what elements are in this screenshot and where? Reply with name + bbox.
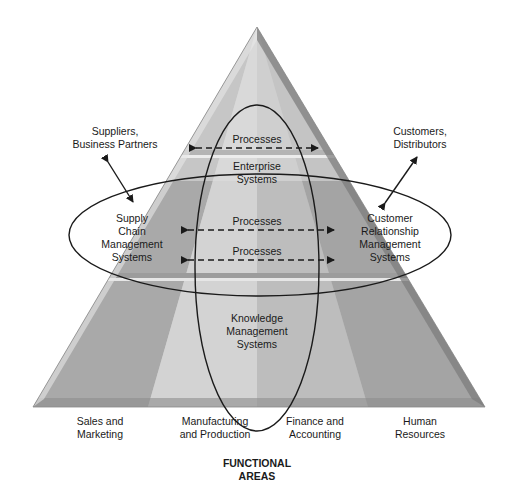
area-sales: Sales and Marketing <box>55 415 145 441</box>
enterprise-systems-label: Enterprise Systems <box>207 160 307 186</box>
customer-arrow <box>385 157 417 203</box>
process-label-mid-2: Processes <box>207 245 307 258</box>
functional-areas-title: FUNCTIONAL AREAS <box>207 457 307 483</box>
crm-label: Customer Relationship Management Systems <box>340 212 440 264</box>
customers-label: Customers, Distributors <box>370 125 470 151</box>
area-hr: Human Resources <box>370 415 470 441</box>
area-manufacturing: Manufacturing and Production <box>160 415 270 441</box>
suppliers-label: Suppliers, Business Partners <box>55 125 175 151</box>
scm-label: Supply Chain Management Systems <box>92 212 172 264</box>
kms-label: Knowledge Management Systems <box>207 312 307 351</box>
area-finance: Finance and Accounting <box>265 415 365 441</box>
process-label-top: Processes <box>207 133 307 146</box>
process-label-mid-1: Processes <box>207 215 307 228</box>
